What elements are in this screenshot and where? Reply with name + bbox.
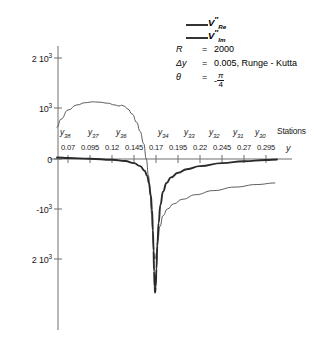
station-label-y38: y38 xyxy=(60,127,70,139)
param-dy: Δy = 0.005, Runge - Kutta xyxy=(176,59,312,73)
param-theta-eq: = xyxy=(202,73,207,82)
param-theta-value: -π4 xyxy=(214,73,224,91)
curve-v-real xyxy=(57,157,277,292)
param-reynolds-symbol: R xyxy=(176,45,183,54)
param-theta: θ = -π4 xyxy=(176,73,312,93)
station-label-y32: y32 xyxy=(209,127,219,139)
param-dy-symbol: Δy xyxy=(176,59,187,68)
figure-root: 2 103 103 0 -103 2 103 0.07 0.095 0.12 0… xyxy=(0,0,314,363)
legend-entry-im: V″Im xyxy=(176,29,312,42)
param-reynolds-value: 2000 xyxy=(214,45,234,54)
station-label-y34: y34 xyxy=(158,127,168,139)
station-label-y36: y36 xyxy=(116,127,126,139)
station-label-y37: y37 xyxy=(88,127,98,139)
x-axis-label: y xyxy=(286,143,290,153)
param-dy-eq: = xyxy=(202,59,207,68)
legend-entry-re: V″Re xyxy=(176,16,312,29)
y-tick-label-zero: 0 xyxy=(6,153,52,165)
station-label-y30: y30 xyxy=(255,127,265,139)
param-dy-value: 0.005, Runge - Kutta xyxy=(214,59,297,68)
station-label-y31: y31 xyxy=(233,127,243,139)
y-tick-label-2e3-pos: 2 103 xyxy=(6,52,52,64)
x-tick-label-9: 0.295 xyxy=(251,143,281,152)
stations-caption: Stations xyxy=(277,126,306,136)
legend-symbol-im: V″Im xyxy=(208,29,225,43)
y-tick-label-2e3-neg: 2 103 xyxy=(6,253,52,265)
param-reynolds: R = 2000 xyxy=(176,45,312,59)
y-tick-label-1e3-neg: -103 xyxy=(6,203,52,215)
station-label-y33: y33 xyxy=(184,127,194,139)
param-reynolds-eq: = xyxy=(202,45,207,54)
param-theta-symbol: θ xyxy=(176,73,181,82)
curve-v-imaginary xyxy=(57,102,275,259)
legend-panel: V″Re V″Im R = 2000 Δy = 0.005, Runge - K… xyxy=(176,16,312,93)
param-theta-fraction: π4 xyxy=(217,72,224,90)
y-tick-label-1e3-pos: 103 xyxy=(6,102,52,114)
